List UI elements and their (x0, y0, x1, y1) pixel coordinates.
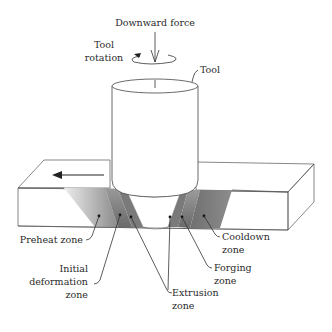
travel-direction-arrow (52, 171, 104, 179)
initial-deformation-label-2: deformation (29, 276, 88, 287)
initial-deformation-label-3: zone (66, 289, 89, 300)
forging-zone-label-1: Forging (214, 262, 252, 273)
cooldown-zone-label-1: Cooldown (222, 231, 270, 242)
downward-force-arrow (151, 32, 159, 62)
downward-force-label: Downward force (115, 17, 195, 28)
initial-deformation-label-1: Initial (60, 263, 88, 274)
fsw-diagram: Downward force Tool rotation Tool Prehea… (0, 0, 332, 332)
extrusion-zone-label-1: Extrusion (172, 287, 219, 298)
extrusion-zone-label-2: zone (172, 300, 195, 311)
tool-rotation-label-2: rotation (85, 52, 123, 63)
tool-rotation-label-1: Tool (94, 39, 114, 50)
tool (112, 79, 198, 197)
tool-label: Tool (200, 64, 220, 75)
cooldown-zone-label-2: zone (222, 244, 245, 255)
forging-zone-label-2: zone (214, 275, 237, 286)
preheat-zone-label: Preheat zone (20, 234, 84, 245)
